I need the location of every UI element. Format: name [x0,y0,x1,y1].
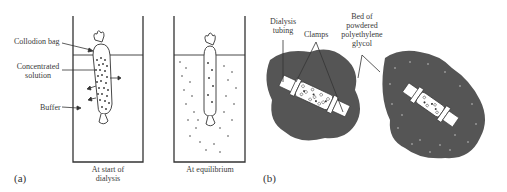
label-tubing-line2: tubing [266,26,300,35]
label-bed-line1: Bed of [334,12,390,21]
label-bed-line4: glycol [334,39,390,48]
label-bed-line2: powdered [334,21,390,30]
label-tubing-line1: Dialysis [266,17,300,26]
panel-label-a: (a) [14,172,26,184]
caption-equilibrium: At equilibrium [174,165,246,174]
dialysis-diagram [0,0,507,192]
label-clamps: Clamps [304,30,328,39]
label-concentrated-solution: Concentrated solution [14,62,62,80]
caption-start-line1: At start of [80,165,136,174]
label-dialysis-tubing: Dialysis tubing [266,17,300,35]
panel-label-b: (b) [263,172,276,184]
label-collodion-bag: Collodion bag [14,37,60,46]
label-peg-bed: Bed of powdered polyethylene glycol [334,12,390,48]
caption-start-line2: dialysis [80,174,136,183]
label-buffer: Buffer [40,103,61,112]
collodion-bag-start [93,31,112,124]
label-concentrated-line2: solution [14,71,62,80]
label-concentrated-line1: Concentrated [14,62,62,71]
caption-start: At start of dialysis [80,165,136,183]
label-bed-line3: polyethylene [334,30,390,39]
collodion-bag-equilibrium [204,33,216,126]
